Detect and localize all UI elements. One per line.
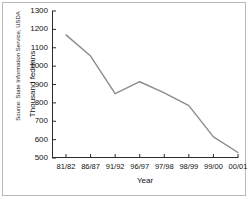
chart-figure: Source: State Information Service, USDA … xyxy=(0,0,249,199)
data-line xyxy=(66,35,238,153)
y-tick-label: 1100 xyxy=(18,44,48,52)
y-tick-label: 1000 xyxy=(18,62,48,70)
x-tick-marks xyxy=(66,154,238,158)
x-axis-tick-labels: 81/8286/8791/9296/9797/9898/9999/0000/01 xyxy=(52,162,238,174)
x-tick-label: 00/01 xyxy=(218,162,249,171)
plot-area xyxy=(52,11,238,158)
y-tick-label: 700 xyxy=(18,117,48,125)
y-tick-marks xyxy=(52,11,56,158)
y-tick-label: 900 xyxy=(18,81,48,89)
y-tick-label: 600 xyxy=(18,136,48,144)
y-tick-label: 500 xyxy=(18,154,48,162)
y-tick-label: 1200 xyxy=(18,25,48,33)
x-axis-title: Year xyxy=(52,176,238,186)
y-tick-label: 1300 xyxy=(18,7,48,15)
y-axis-tick-labels: 5006007008009001000110012001300 xyxy=(14,11,48,158)
line-series-svg xyxy=(52,11,238,158)
y-tick-label: 800 xyxy=(18,99,48,107)
